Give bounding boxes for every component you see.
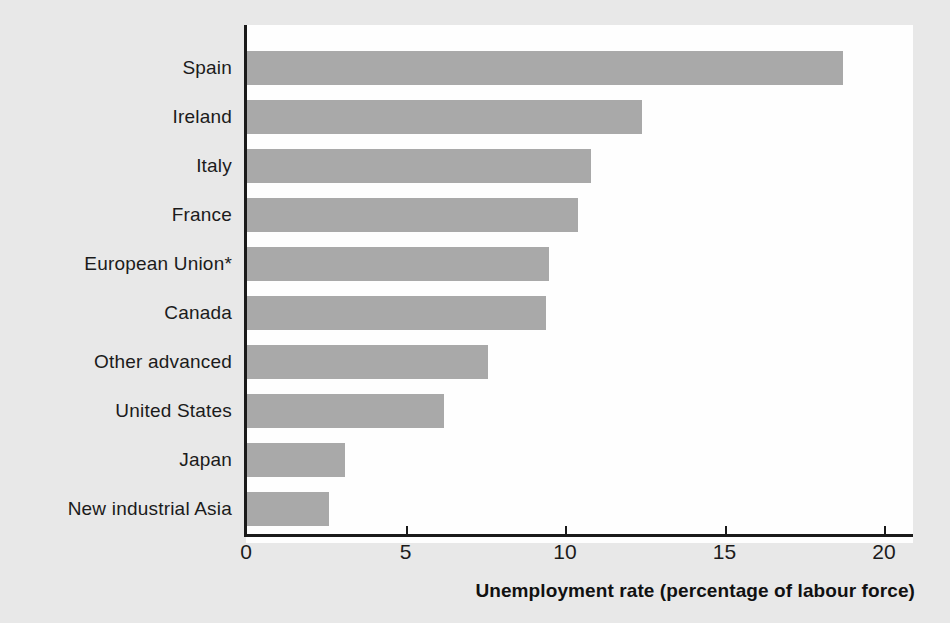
figure-page: SpainIrelandItalyFranceEuropean Union*Ca… (0, 0, 950, 623)
bar-new-industrial-asia (246, 492, 329, 526)
bar-canada (246, 296, 546, 330)
category-label-canada: Canada (0, 303, 232, 322)
bar-other-advanced (246, 345, 488, 379)
x-tick-label-20: 20 (872, 541, 895, 562)
x-tick-label-10: 10 (553, 541, 576, 562)
category-label-france: France (0, 205, 232, 224)
category-label-new-industrial-asia: New industrial Asia (0, 499, 232, 518)
bar-france (246, 198, 578, 232)
bars-container (246, 25, 913, 535)
category-label-united-states: United States (0, 401, 232, 420)
bar-italy (246, 149, 591, 183)
x-tick-15 (725, 526, 727, 535)
category-axis-labels: SpainIrelandItalyFranceEuropean Union*Ca… (0, 25, 232, 535)
x-tick-10 (565, 526, 567, 535)
category-label-european-union: European Union* (0, 254, 232, 273)
x-tick-label-0: 0 (240, 541, 252, 562)
x-tick-label-15: 15 (713, 541, 736, 562)
y-axis-line (244, 25, 247, 536)
bar-european-union (246, 247, 549, 281)
category-label-ireland: Ireland (0, 107, 232, 126)
bar-spain (246, 51, 843, 85)
category-label-japan: Japan (0, 450, 232, 469)
category-label-italy: Italy (0, 156, 232, 175)
category-label-other-advanced: Other advanced (0, 352, 232, 371)
x-tick-20 (884, 526, 886, 535)
bar-japan (246, 443, 345, 477)
x-tick-5 (406, 526, 408, 535)
bar-ireland (246, 100, 642, 134)
bar-united-states (246, 394, 444, 428)
category-label-spain: Spain (0, 58, 232, 77)
x-axis-title: Unemployment rate (percentage of labour … (260, 581, 915, 600)
x-axis-line (244, 534, 913, 537)
x-tick-label-5: 5 (400, 541, 412, 562)
